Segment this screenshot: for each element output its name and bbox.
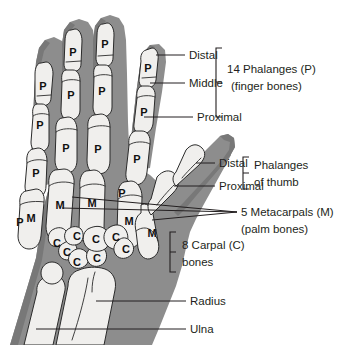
carpal-marker: C [63,246,71,258]
label-carpals-line1: 8 Carpal (C) [182,239,245,251]
label-thumb-group-line2: of thumb [254,176,299,188]
metacarpal-marker: M [55,199,64,211]
metacarpal-marker: M [26,212,35,224]
label-distal-finger: Distal [189,49,218,61]
label-metacarpals-line2: (palm bones) [241,223,308,235]
label-thumb-group-line1: Phalanges [254,159,309,171]
label-radius: Radius [190,295,226,307]
label-carpals-line2: bones [182,256,214,268]
phalanx-marker: P [118,187,125,199]
phalanx-marker: P [16,216,23,228]
phalanx-marker: P [144,62,151,74]
label-metacarpals-line1: 5 Metacarpals (M) [241,206,334,218]
phalanx-marker: P [67,89,74,101]
label-middle-finger: Middle [189,77,223,89]
carpal-marker: C [73,256,81,268]
label-distal-thumb: Distal [219,157,248,169]
metacarpal-marker: M [124,215,133,227]
label-phalanges-group-line2: (finger bones) [231,80,302,92]
bone-ulna-styloid-head [41,262,63,284]
carpal-marker: C [112,231,120,243]
label-ulna: Ulna [190,323,214,335]
label-phalanges-group-line1: 14 Phalanges (P) [227,63,316,75]
carpal-marker: C [92,233,100,245]
phalanx-marker: P [101,38,108,50]
phalanx-marker: P [98,85,105,97]
metacarpal-marker: M [147,227,156,239]
phalanx-marker: P [39,80,46,92]
phalanx-marker: P [140,106,147,118]
carpal-marker: C [73,230,81,242]
phalanx-marker: P [62,142,69,154]
phalanx-marker: P [36,119,43,131]
carpal-marker: C [122,243,130,255]
carpal-marker: C [53,237,61,249]
phalanx-marker: P [32,167,39,179]
carpal-marker: C [93,252,101,264]
label-proximal-finger: Proximal [197,111,242,123]
phalanx-marker: P [133,153,140,165]
phalanx-marker: P [69,46,76,58]
hand-bones-diagram: P P P P P P P P P P P P P P M M M M M C … [0,0,339,345]
phalanx-marker: P [94,143,101,155]
